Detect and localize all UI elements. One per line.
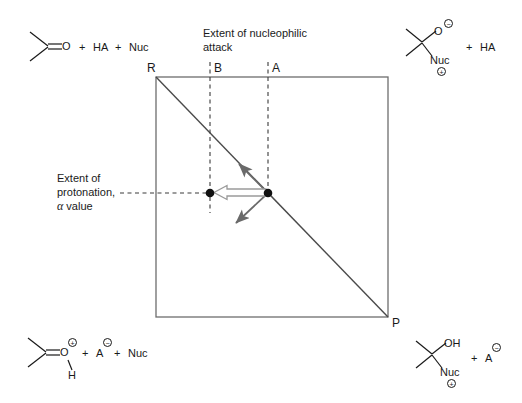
tr-o-charge: − (444, 19, 453, 28)
structure-top-right-skeleton (406, 29, 436, 56)
br-nuc-charge: + (447, 379, 456, 388)
bl-o-charge: + (68, 338, 77, 347)
bl-o: O (60, 346, 69, 358)
bl-h: H (68, 369, 76, 381)
y-axis-caption: Extent of protonation, α value (57, 171, 157, 213)
figure-canvas: Extent of nucleophilic attack Extent of … (0, 0, 522, 403)
point-a-dot (264, 189, 273, 198)
tr-nuc: Nuc (430, 54, 450, 66)
corner-label-p: P (392, 317, 400, 329)
tl-ha: HA (93, 41, 108, 53)
bl-plus-1: + (82, 347, 88, 359)
tick-label-b: B (214, 62, 222, 74)
br-nuc: Nuc (440, 366, 460, 378)
tl-plus-2: + (115, 41, 121, 53)
br-a-charge: − (492, 343, 501, 352)
tr-nuc-charge: + (437, 67, 446, 76)
br-a: A (485, 352, 492, 364)
tr-o: O (434, 25, 443, 37)
corner-label-r: R (147, 62, 156, 74)
br-oh: OH (444, 337, 461, 349)
tr-ha: HA (480, 41, 495, 53)
tick-label-a: A (272, 62, 280, 74)
structure-top-left-skeleton (30, 32, 62, 61)
x-axis-caption-line2: attack (203, 41, 232, 53)
x-axis-caption-line1: Extent of nucleophilic (203, 27, 307, 39)
point-b-dot (206, 189, 215, 198)
bl-a: A (96, 347, 103, 359)
x-axis-caption: Extent of nucleophilic attack (203, 26, 343, 54)
alpha-value-word: value (63, 200, 92, 212)
y-axis-caption-line1: Extent of (57, 172, 100, 184)
bl-plus-2: + (114, 347, 120, 359)
tl-carbonyl-o: O (62, 40, 71, 52)
bl-a-charge: − (103, 338, 112, 347)
bl-nuc: Nuc (128, 347, 148, 359)
perpendicular-vector-arrow (236, 193, 268, 223)
br-plus: + (471, 352, 477, 364)
tl-plus-1: + (79, 41, 85, 53)
tr-plus: + (466, 41, 472, 53)
tl-nuc: Nuc (129, 41, 149, 53)
reaction-diagonal (156, 77, 388, 317)
resultant-shift-arrow (214, 186, 266, 200)
structure-bottom-right-skeleton (416, 341, 446, 368)
y-axis-caption-line2: protonation, (57, 186, 115, 198)
